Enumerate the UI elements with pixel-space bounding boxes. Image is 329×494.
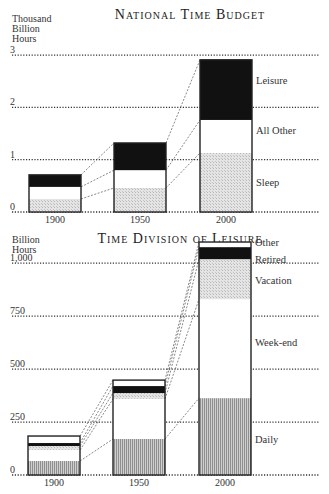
- x-tick-label: 1900: [45, 214, 65, 225]
- bar-segment-all-other: [200, 120, 252, 153]
- bar-segment-vacation: [28, 446, 80, 450]
- series-label: Leisure: [256, 75, 288, 86]
- series-labels: SleepAll OtherLeisure: [256, 75, 296, 188]
- bar-segment-retired: [28, 443, 80, 446]
- bar-segment-week-end: [113, 399, 165, 439]
- y-tick-label: 2: [10, 96, 15, 107]
- series-label: Retired: [255, 254, 287, 265]
- bar-segment-week-end: [199, 299, 251, 398]
- bar-segment-leisure: [29, 175, 81, 187]
- series-label: Week-end: [255, 337, 298, 348]
- y-tick-label: 1: [10, 149, 15, 160]
- y-tick-label: 0: [10, 464, 15, 475]
- x-tick-label: 1900: [44, 477, 64, 488]
- y-axis-label: Thousand Billion Hours: [12, 13, 51, 44]
- series-labels: DailyWeek-endVacationRetiredOther: [255, 237, 298, 445]
- x-tick-label: 1950: [129, 477, 149, 488]
- chart-national-time-budget: National Time Budget Thousand Billion Ho…: [10, 7, 320, 225]
- bar-segment-other: [28, 436, 80, 443]
- svg-text:Hours: Hours: [12, 33, 37, 44]
- chart-title: National Time Budget: [115, 7, 265, 22]
- bar-segment-all-other: [29, 187, 81, 199]
- series-label: Other: [255, 237, 279, 248]
- chart-figure: National Time Budget Thousand Billion Ho…: [0, 0, 329, 494]
- y-ticks: 0123: [10, 44, 15, 212]
- bar-segment-daily: [28, 461, 80, 475]
- bar-segment-all-other: [114, 170, 166, 188]
- bar-segment-retired: [113, 386, 165, 393]
- x-tick-label: 2000: [216, 214, 236, 225]
- y-tick-label: 500: [10, 358, 25, 369]
- bar-1900: [28, 436, 80, 475]
- bar-segment-daily: [113, 439, 165, 475]
- bar-segment-other: [113, 380, 165, 386]
- chart-time-division-of-leisure: Time Division of Leisure Billion Hours 0…: [10, 231, 320, 488]
- bar-2000: [199, 242, 251, 475]
- series-label: All Other: [256, 125, 296, 136]
- y-tick-label: 0: [10, 201, 15, 212]
- y-tick-label: 250: [10, 411, 25, 422]
- bar-1950: [113, 380, 165, 475]
- bar-segment-leisure: [114, 143, 166, 170]
- x-tick-label: 1950: [130, 214, 150, 225]
- stacked-bars: [28, 242, 251, 475]
- bar-segment-leisure: [200, 60, 252, 120]
- bar-2000: [200, 60, 252, 212]
- bar-segment-sleep: [114, 188, 166, 212]
- series-label: Vacation: [255, 275, 292, 286]
- y-tick-label: 750: [10, 305, 25, 316]
- series-label: Daily: [255, 434, 279, 445]
- x-tick-labels: 190019502000: [44, 477, 235, 488]
- y-tick-label: 3: [10, 44, 15, 55]
- bar-1900: [29, 175, 81, 212]
- bar-segment-vacation: [113, 393, 165, 399]
- x-tick-labels: 190019502000: [45, 214, 236, 225]
- bar-segment-week-end: [28, 450, 80, 461]
- bar-segment-other: [199, 242, 251, 247]
- bar-1950: [114, 143, 166, 212]
- bar-segment-retired: [199, 247, 251, 259]
- series-label: Sleep: [256, 177, 279, 188]
- bar-segment-sleep: [29, 199, 81, 212]
- stacked-bars: [29, 60, 252, 212]
- bar-segment-daily: [199, 398, 251, 475]
- bar-segment-sleep: [200, 153, 252, 212]
- y-tick-label: 1,000: [10, 252, 33, 263]
- bar-segment-vacation: [199, 259, 251, 299]
- x-tick-label: 2000: [215, 477, 235, 488]
